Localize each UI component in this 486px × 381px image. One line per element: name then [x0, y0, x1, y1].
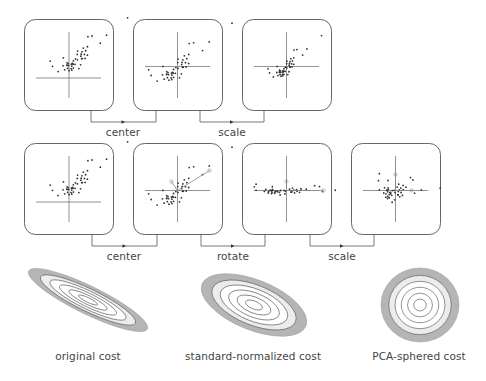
- step-arrow-icon: [123, 244, 127, 248]
- data-point: [150, 75, 152, 77]
- data-point: [150, 199, 152, 201]
- data-point: [296, 49, 298, 51]
- data-point: [168, 203, 170, 205]
- data-point: [397, 191, 399, 193]
- data-point: [283, 190, 285, 192]
- data-point: [177, 186, 179, 188]
- cost-label-original: original cost: [55, 350, 121, 362]
- data-point: [171, 196, 173, 198]
- data-point: [166, 197, 168, 199]
- data-point: [394, 199, 396, 201]
- data-point: [84, 178, 86, 180]
- data-point: [288, 64, 290, 66]
- data-point: [85, 50, 87, 52]
- data-point: [284, 193, 286, 195]
- data-point: [291, 63, 293, 65]
- data-point: [148, 193, 150, 195]
- data-point: [71, 63, 73, 65]
- data-point: [80, 64, 82, 66]
- data-point: [387, 189, 389, 191]
- data-point: [177, 68, 179, 70]
- data-point: [188, 187, 190, 189]
- data-point: [77, 59, 79, 61]
- data-point: [87, 170, 89, 172]
- data-point: [80, 55, 82, 57]
- data-point: [290, 58, 292, 60]
- step-arrow-icon: [122, 120, 126, 124]
- data-point: [167, 196, 169, 198]
- data-point: [49, 184, 51, 186]
- data-point: [385, 193, 387, 195]
- data-point: [391, 190, 393, 192]
- data-point: [66, 64, 68, 66]
- data-point: [74, 187, 76, 189]
- data-point: [391, 201, 393, 203]
- data-point: [288, 63, 290, 65]
- data-point: [81, 175, 83, 177]
- data-point: [286, 63, 288, 65]
- data-point: [293, 57, 295, 59]
- data-point: [67, 191, 69, 193]
- data-point: [291, 66, 293, 68]
- data-point: [283, 73, 285, 75]
- data-point: [319, 186, 321, 188]
- data-point: [279, 74, 281, 76]
- step-arrow-icon: [230, 120, 234, 124]
- step-label-scale-row1: scale: [218, 126, 246, 138]
- data-point: [277, 75, 279, 77]
- step-label-scale-row2: scale: [328, 250, 356, 262]
- data-point: [299, 191, 301, 193]
- data-point: [185, 62, 187, 64]
- data-point: [106, 34, 108, 36]
- data-point: [162, 74, 164, 76]
- step-connector: [200, 110, 264, 122]
- data-point: [71, 69, 73, 71]
- step-arrow-icon: [340, 244, 344, 248]
- data-point: [387, 179, 389, 181]
- panel-rotated: [243, 144, 332, 235]
- data-point: [156, 204, 158, 206]
- data-point: [71, 189, 73, 191]
- data-point: [87, 46, 89, 48]
- data-point: [388, 194, 390, 196]
- data-point: [181, 64, 183, 66]
- data-point: [182, 66, 184, 68]
- data-point: [279, 194, 281, 196]
- step-label-center-row1: center: [106, 126, 140, 138]
- data-point: [314, 185, 316, 187]
- data-point: [285, 66, 287, 68]
- data-point: [72, 67, 74, 69]
- data-point: [384, 187, 386, 189]
- data-point: [280, 190, 282, 192]
- data-point: [63, 181, 65, 183]
- data-point: [289, 188, 291, 190]
- data-point: [72, 191, 74, 193]
- data-point: [175, 67, 177, 69]
- data-point: [71, 187, 73, 189]
- panel-scaled: [243, 20, 332, 111]
- figure: center scale center rotate scale origina…: [0, 0, 486, 381]
- data-point: [185, 190, 187, 192]
- data-point: [402, 185, 404, 187]
- data-point: [77, 183, 79, 185]
- data-point: [253, 186, 255, 188]
- data-point: [292, 187, 294, 189]
- data-point: [68, 65, 70, 67]
- data-point: [84, 54, 86, 56]
- data-point: [293, 63, 295, 65]
- data-point: [63, 57, 65, 59]
- data-point: [163, 78, 165, 80]
- data-point: [188, 43, 190, 45]
- data-point: [387, 196, 389, 198]
- data-point: [255, 183, 257, 185]
- data-point: [76, 53, 78, 55]
- data-point: [267, 68, 269, 70]
- step-connector: [92, 234, 157, 246]
- data-point: [75, 58, 77, 60]
- panel-centered-with-principal-axes: [134, 144, 223, 235]
- data-point: [276, 72, 278, 74]
- data-point: [167, 72, 169, 74]
- data-point: [52, 189, 54, 191]
- data-point: [279, 191, 281, 193]
- data-point: [86, 178, 88, 180]
